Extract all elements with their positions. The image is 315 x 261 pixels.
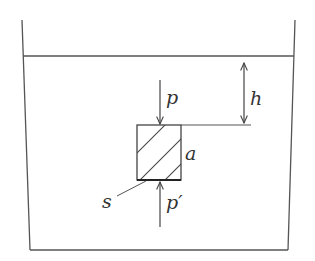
diagram-canvas: p h a s p′ [0, 0, 315, 261]
container [22, 20, 295, 250]
label-p-prime: p′ [166, 191, 183, 213]
label-p: p [166, 86, 178, 108]
diagram-svg: p h a s p′ [0, 0, 315, 261]
leader-s [117, 181, 146, 196]
label-a: a [185, 142, 196, 164]
label-h: h [250, 87, 262, 109]
label-s: s [102, 190, 112, 212]
